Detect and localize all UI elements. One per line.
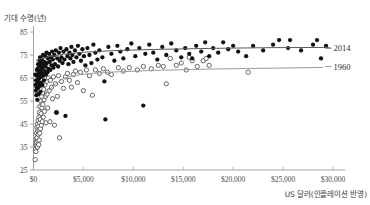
series-points-2014 bbox=[33, 38, 328, 122]
data-point-1960 bbox=[101, 67, 105, 71]
data-point-1960 bbox=[246, 70, 250, 74]
data-point-1960 bbox=[75, 80, 79, 84]
data-point-2014 bbox=[87, 53, 91, 57]
x-tick-label: $10,000 bbox=[121, 175, 146, 184]
data-point-1960 bbox=[84, 68, 88, 72]
series-label-1960: 1960 bbox=[334, 62, 351, 72]
x-tick-label: $30,000 bbox=[321, 175, 346, 184]
data-point-2014 bbox=[179, 55, 183, 59]
data-point-1960 bbox=[34, 149, 38, 153]
data-point-1960 bbox=[41, 102, 45, 106]
data-point-1960 bbox=[69, 85, 73, 89]
data-point-1960 bbox=[37, 138, 41, 142]
data-point-2014 bbox=[85, 46, 89, 50]
data-point-1960 bbox=[46, 106, 50, 110]
data-point-2014 bbox=[190, 56, 194, 60]
scatter-plot-canvas: 25354555657585 $0$5,000$10,000$15,000$20… bbox=[0, 0, 370, 205]
data-point-2014 bbox=[103, 117, 107, 121]
data-point-2014 bbox=[73, 48, 77, 52]
data-point-2014 bbox=[63, 114, 67, 118]
data-point-2014 bbox=[277, 38, 281, 42]
data-point-2014 bbox=[51, 57, 55, 61]
data-point-2014 bbox=[40, 83, 44, 87]
data-point-1960 bbox=[48, 120, 52, 124]
data-point-2014 bbox=[311, 43, 315, 47]
data-point-1960 bbox=[41, 115, 45, 119]
data-point-1960 bbox=[73, 69, 77, 73]
data-point-1960 bbox=[156, 63, 160, 67]
data-point-2014 bbox=[71, 60, 75, 64]
data-point-1960 bbox=[57, 136, 61, 140]
data-point-2014 bbox=[288, 38, 292, 42]
data-point-2014 bbox=[129, 41, 133, 45]
x-tick-label: $5,000 bbox=[73, 175, 94, 184]
data-point-2014 bbox=[79, 59, 83, 63]
data-point-2014 bbox=[102, 79, 106, 83]
data-point-1960 bbox=[37, 143, 41, 147]
y-tick-label: 65 bbox=[20, 74, 28, 83]
data-point-2014 bbox=[194, 44, 198, 48]
data-point-2014 bbox=[112, 59, 116, 63]
data-point-1960 bbox=[168, 56, 172, 60]
data-point-2014 bbox=[236, 49, 240, 53]
data-point-2014 bbox=[183, 46, 187, 50]
data-point-1960 bbox=[65, 71, 69, 75]
data-point-2014 bbox=[164, 53, 168, 57]
life-expectancy-vs-income-chart: 기대 수명(년) US 달러(인플레이션 반영) 25354555657585 … bbox=[0, 0, 370, 205]
data-point-2014 bbox=[160, 45, 164, 49]
data-point-2014 bbox=[89, 61, 93, 65]
data-point-2014 bbox=[38, 90, 42, 94]
data-point-2014 bbox=[147, 43, 151, 47]
data-point-1960 bbox=[127, 66, 131, 70]
data-point-1960 bbox=[93, 68, 97, 72]
data-point-2014 bbox=[57, 51, 61, 55]
data-point-2014 bbox=[100, 55, 104, 59]
data-point-2014 bbox=[62, 57, 66, 61]
data-point-2014 bbox=[299, 48, 303, 52]
data-point-2014 bbox=[115, 44, 119, 48]
y-tick-label: 55 bbox=[20, 97, 28, 106]
y-tick-label: 45 bbox=[20, 120, 28, 129]
data-point-1960 bbox=[179, 61, 183, 65]
data-point-2014 bbox=[76, 44, 80, 48]
data-point-2014 bbox=[82, 54, 86, 58]
data-point-1960 bbox=[33, 158, 37, 162]
x-tick-label: $0 bbox=[30, 175, 38, 184]
x-tick-label: $20,000 bbox=[221, 175, 246, 184]
data-point-2014 bbox=[106, 45, 110, 49]
y-tick-label: 75 bbox=[20, 51, 28, 60]
data-point-2014 bbox=[83, 63, 87, 67]
data-point-1960 bbox=[174, 63, 178, 67]
data-point-2014 bbox=[133, 54, 137, 58]
data-point-2014 bbox=[216, 51, 220, 55]
data-point-1960 bbox=[207, 63, 211, 67]
data-point-2014 bbox=[221, 40, 225, 44]
data-point-2014 bbox=[286, 46, 290, 50]
data-point-2014 bbox=[58, 46, 62, 50]
data-point-2014 bbox=[69, 45, 73, 49]
data-point-1960 bbox=[90, 93, 94, 97]
data-point-1960 bbox=[109, 72, 113, 76]
data-point-2014 bbox=[315, 38, 319, 42]
data-point-2014 bbox=[207, 54, 211, 58]
data-point-2014 bbox=[169, 41, 173, 45]
data-point-2014 bbox=[271, 43, 275, 47]
data-point-2014 bbox=[80, 47, 84, 51]
data-point-2014 bbox=[74, 55, 78, 59]
data-point-1960 bbox=[61, 86, 65, 90]
x-tick-label-group: $0$5,000$10,000$15,000$20,000$25,000$30,… bbox=[30, 175, 346, 184]
data-point-2014 bbox=[143, 52, 147, 56]
data-point-1960 bbox=[42, 109, 46, 113]
y-tick-label: 85 bbox=[20, 28, 28, 37]
data-point-1960 bbox=[67, 78, 71, 82]
data-point-2014 bbox=[91, 43, 95, 47]
data-point-2014 bbox=[64, 47, 68, 51]
data-point-2014 bbox=[251, 44, 255, 48]
data-point-1960 bbox=[52, 123, 56, 127]
data-point-2014 bbox=[203, 40, 207, 44]
data-point-2014 bbox=[319, 56, 323, 60]
data-point-2014 bbox=[66, 62, 70, 66]
data-point-2014 bbox=[141, 103, 145, 107]
data-point-1960 bbox=[50, 97, 54, 101]
data-point-2014 bbox=[95, 57, 99, 61]
